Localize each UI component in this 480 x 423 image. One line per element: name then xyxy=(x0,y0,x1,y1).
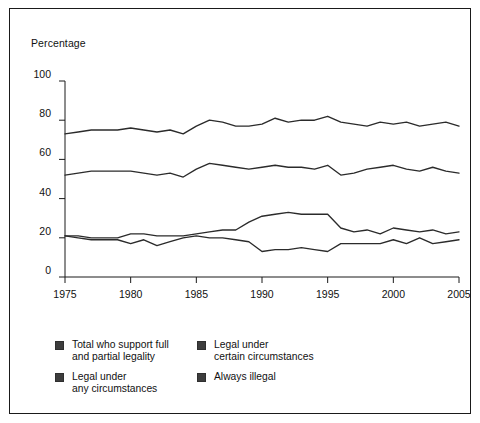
series-line-legal-under-any-circumstances xyxy=(65,212,459,237)
legend-swatch-total-support xyxy=(55,341,64,350)
x-tick-label-2005: 2005 xyxy=(439,288,479,300)
legend-item-any-circumstances: Legal under any circumstances xyxy=(55,371,205,395)
legend-label-always-illegal: Always illegal xyxy=(214,371,276,383)
legend-item-certain-circumstances: Legal under certain circumstances xyxy=(197,339,347,363)
legend-swatch-any-circumstances xyxy=(55,373,64,382)
x-tick-label-1980: 1980 xyxy=(111,288,151,300)
series-line-legal-under-certain-circumstances xyxy=(65,163,459,177)
line-chart-svg xyxy=(19,17,480,317)
x-tick-label-2000: 2000 xyxy=(373,288,413,300)
chart-axes xyxy=(65,81,459,277)
y-tick-label-20: 20 xyxy=(25,225,51,237)
y-tick-label-80: 80 xyxy=(25,107,51,119)
series-line-total-who-support-full-and-partial-legality xyxy=(65,116,459,134)
chart-frame: Percentage 02040608010019751980198519901… xyxy=(9,8,471,414)
y-tick-label-40: 40 xyxy=(25,186,51,198)
x-tick-label-1995: 1995 xyxy=(308,288,348,300)
series-line-always-illegal xyxy=(65,236,459,252)
chart-legend: Total who support full and partial legal… xyxy=(19,335,480,415)
legend-label-any-circumstances: Legal under any circumstances xyxy=(72,371,157,395)
x-tick-label-1985: 1985 xyxy=(176,288,216,300)
legend-item-total-support: Total who support full and partial legal… xyxy=(55,339,205,363)
y-tick-label-100: 100 xyxy=(25,68,51,80)
legend-label-certain-circumstances: Legal under certain circumstances xyxy=(214,339,314,363)
y-tick-label-60: 60 xyxy=(25,146,51,158)
legend-item-always-illegal: Always illegal xyxy=(197,371,347,383)
y-tick-label-0: 0 xyxy=(25,264,51,276)
legend-swatch-always-illegal xyxy=(197,373,206,382)
x-tick-label-1990: 1990 xyxy=(242,288,282,300)
legend-swatch-certain-circumstances xyxy=(197,341,206,350)
legend-label-total-support: Total who support full and partial legal… xyxy=(72,339,169,363)
x-tick-label-1975: 1975 xyxy=(45,288,85,300)
plot-area: 0204060801001975198019851990199520002005 xyxy=(19,17,480,317)
